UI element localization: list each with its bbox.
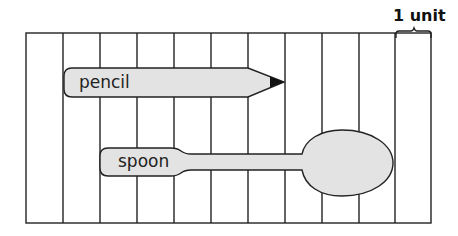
unit-grid: [26, 33, 431, 223]
pencil-label: pencil: [79, 72, 130, 92]
pencil: pencil: [64, 68, 284, 97]
unit-label: 1 unit: [393, 6, 446, 25]
spoon-label: spoon: [118, 151, 169, 171]
measurement-diagram: 1 unit pencil spoon: [0, 0, 458, 236]
